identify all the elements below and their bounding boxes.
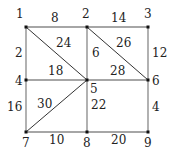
edge-weight-3-6: 12	[152, 46, 167, 60]
node-8	[86, 131, 89, 134]
node-label-1: 1	[16, 7, 24, 21]
edge-weight-5-8: 22	[91, 98, 106, 112]
node-7	[25, 131, 28, 134]
edge-weight-4-5: 18	[48, 64, 63, 78]
node-6	[147, 79, 150, 82]
node-label-7: 7	[22, 136, 30, 150]
edge-weight-2-6: 26	[116, 36, 131, 50]
edge-weight-6-9: 4	[152, 100, 160, 114]
edge-weight-4-7: 16	[7, 100, 22, 114]
node-1	[25, 26, 28, 29]
edge-weight-8-9: 20	[111, 133, 126, 147]
edge-weight-7-5: 30	[37, 97, 52, 111]
node-label-3: 3	[144, 7, 152, 21]
node-label-8: 8	[83, 136, 91, 150]
edge-weight-2-3: 14	[111, 11, 127, 25]
edge-7-5	[26, 80, 87, 132]
edge-weight-1-4: 2	[15, 46, 23, 60]
node-9	[147, 131, 150, 134]
edge-weight-7-8: 10	[49, 133, 64, 147]
node-4	[25, 79, 28, 82]
node-2	[86, 26, 89, 29]
edge-weight-1-5: 24	[56, 36, 72, 50]
edge-weight-1-2: 8	[51, 11, 59, 25]
node-label-4: 4	[15, 74, 23, 88]
edge-weight-5-6: 28	[110, 64, 125, 78]
node-label-6: 6	[152, 74, 160, 88]
node-label-9: 9	[144, 136, 152, 150]
node-3	[147, 26, 150, 29]
edge-weight-2-5: 6	[92, 46, 100, 60]
node-5	[86, 79, 89, 82]
node-label-2: 2	[82, 7, 90, 21]
weighted-graph: 81426122426182816302241020 123456789	[0, 0, 171, 157]
node-label-5: 5	[90, 82, 98, 96]
